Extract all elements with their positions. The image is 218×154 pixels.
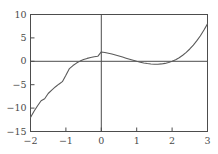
plot-frame	[31, 15, 208, 132]
data-curve-0	[31, 24, 208, 118]
x-axis-tick-label: 0	[98, 136, 104, 146]
y-axis-tick-label: 10	[14, 10, 26, 20]
y-axis-tick-label: 0	[20, 57, 26, 67]
y-axis-tick-label: −5	[12, 80, 26, 90]
chart-figure: −15−10−50510−2−10123	[0, 0, 218, 154]
y-axis-tick-label: 5	[20, 33, 26, 43]
x-axis-tick-label: −1	[59, 136, 73, 146]
y-axis-tick-label: −10	[6, 103, 26, 113]
x-axis-tick-label: 2	[169, 136, 175, 146]
plot-area	[0, 0, 218, 154]
x-axis-tick-label: 3	[204, 136, 210, 146]
x-axis-tick-label: −2	[23, 136, 37, 146]
x-axis-tick-label: 1	[134, 136, 140, 146]
